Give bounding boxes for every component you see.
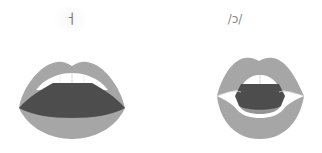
diagram-open-o: /ɔ/ [161,0,322,153]
diagram-eo: ㅓ [0,0,161,153]
mouth-open-wide-icon [0,0,161,153]
mouth-rounded-icon [161,0,322,153]
